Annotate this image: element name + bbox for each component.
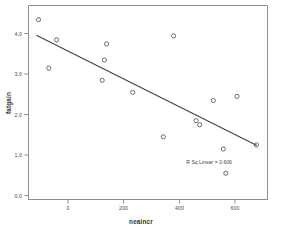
data-point bbox=[100, 78, 104, 82]
y-tick-group: 0.0 bbox=[14, 193, 28, 199]
y-tick-group: 3.0 bbox=[14, 71, 28, 77]
x-tick-group: 200 bbox=[119, 200, 128, 212]
y-tick-label: 4.0 bbox=[14, 31, 22, 37]
x-axis: 0 200 400 600 bbox=[67, 200, 240, 212]
y-tick-group: 4.0 bbox=[14, 31, 28, 37]
x-tick-group: 600 bbox=[231, 200, 240, 212]
x-tick-group: 0 bbox=[67, 200, 70, 212]
data-point bbox=[54, 38, 58, 42]
chart-canvas: 0.0 1.0 2.0 3.0 4.0 0 bbox=[0, 0, 282, 232]
scatter-plot-figure: 0.0 1.0 2.0 3.0 4.0 0 bbox=[0, 0, 282, 232]
data-point bbox=[171, 34, 175, 38]
y-tick-label: 0.0 bbox=[14, 193, 22, 199]
data-points-layer bbox=[36, 18, 258, 176]
x-tick-label: 0 bbox=[67, 205, 70, 211]
data-point bbox=[47, 66, 51, 70]
data-point bbox=[36, 18, 40, 22]
plot-frame bbox=[29, 6, 268, 200]
y-tick-label: 2.0 bbox=[14, 112, 22, 118]
r-squared-annotation: R Sq Linear = 0.606 bbox=[186, 159, 232, 165]
y-tick-group: 2.0 bbox=[14, 112, 28, 118]
data-point bbox=[104, 42, 108, 46]
x-tick-label: 200 bbox=[119, 205, 128, 211]
x-tick-label: 600 bbox=[231, 205, 240, 211]
data-point bbox=[194, 119, 198, 123]
data-point bbox=[221, 147, 225, 151]
y-tick-group: 1.0 bbox=[14, 152, 28, 158]
data-point bbox=[102, 58, 106, 62]
x-tick-label: 400 bbox=[175, 205, 184, 211]
y-axis-title: fatgain bbox=[5, 92, 13, 114]
data-point bbox=[198, 123, 202, 127]
y-tick-label: 3.0 bbox=[14, 71, 22, 77]
y-tick-label: 1.0 bbox=[14, 152, 22, 158]
x-tick-group: 400 bbox=[175, 200, 184, 212]
data-point bbox=[235, 94, 239, 98]
data-point bbox=[211, 98, 215, 102]
data-point bbox=[224, 171, 228, 175]
data-point bbox=[161, 135, 165, 139]
x-axis-title: neaincr bbox=[129, 218, 153, 225]
y-axis: 0.0 1.0 2.0 3.0 4.0 bbox=[14, 31, 28, 199]
data-point bbox=[131, 90, 135, 94]
regression-line bbox=[37, 35, 257, 145]
